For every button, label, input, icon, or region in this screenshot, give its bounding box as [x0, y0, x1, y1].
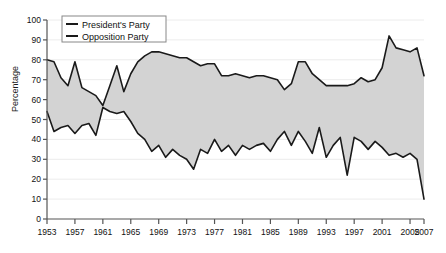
x-axis: 1953195719611965196919731977198119851989… — [38, 219, 434, 237]
svg-text:1969: 1969 — [149, 227, 168, 237]
legend-item-label: Opposition Party — [82, 32, 149, 42]
svg-text:1953: 1953 — [38, 227, 57, 237]
svg-text:30: 30 — [32, 154, 42, 164]
chart-legend: President's PartyOpposition Party — [62, 16, 166, 42]
chart-container: Percentage 0102030405060708090100 195319… — [0, 0, 446, 253]
svg-text:50: 50 — [32, 115, 42, 125]
svg-text:0: 0 — [36, 214, 41, 224]
svg-text:1973: 1973 — [177, 227, 196, 237]
y-axis: 0102030405060708090100 — [27, 15, 47, 224]
svg-text:40: 40 — [32, 134, 42, 144]
svg-text:60: 60 — [32, 95, 42, 105]
svg-text:90: 90 — [32, 35, 42, 45]
svg-text:2001: 2001 — [373, 227, 392, 237]
svg-text:1977: 1977 — [205, 227, 224, 237]
area-between-series — [47, 36, 424, 199]
legend-item-label: President's Party — [82, 20, 150, 30]
svg-text:1957: 1957 — [65, 227, 84, 237]
svg-text:100: 100 — [27, 15, 41, 25]
svg-text:70: 70 — [32, 75, 42, 85]
svg-text:20: 20 — [32, 174, 42, 184]
svg-text:2007: 2007 — [415, 227, 434, 237]
svg-text:1989: 1989 — [289, 227, 308, 237]
svg-text:1961: 1961 — [93, 227, 112, 237]
svg-text:80: 80 — [32, 55, 42, 65]
svg-text:1993: 1993 — [317, 227, 336, 237]
chart-plot: 0102030405060708090100 19531957196119651… — [0, 0, 446, 253]
svg-text:1985: 1985 — [261, 227, 280, 237]
svg-text:1965: 1965 — [121, 227, 140, 237]
svg-text:1997: 1997 — [345, 227, 364, 237]
svg-text:10: 10 — [32, 194, 42, 204]
svg-text:1981: 1981 — [233, 227, 252, 237]
